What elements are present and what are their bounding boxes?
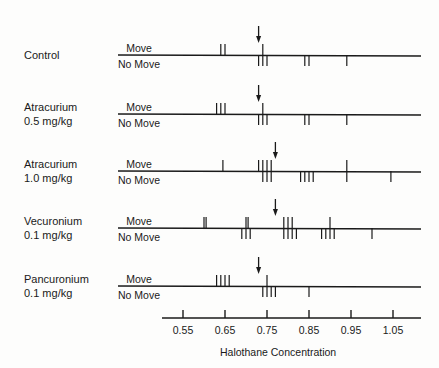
x-axis-tick-label: 1.05 — [379, 324, 407, 336]
series-baseline — [118, 286, 421, 287]
series-baseline — [118, 55, 421, 56]
mac-arrow-icon — [256, 267, 261, 274]
x-axis-title: Halothane Concentration — [220, 346, 336, 358]
plot-area — [0, 0, 439, 368]
mac-arrow-icon — [256, 95, 261, 102]
x-axis-tick-label: 0.55 — [169, 324, 197, 336]
mac-arrow-icon — [273, 152, 278, 159]
x-axis-tick-label: 0.95 — [337, 324, 365, 336]
series-baseline — [118, 114, 421, 115]
series-baseline — [118, 228, 421, 229]
x-axis-tick-label: 0.85 — [295, 324, 323, 336]
mac-arrow-icon — [273, 209, 278, 216]
series-baseline — [118, 171, 421, 172]
chart-figure: Control Atracurium 0.5 mg/kg Atracurium … — [0, 0, 439, 368]
x-axis-tick-label: 0.65 — [211, 324, 239, 336]
x-axis-tick-label: 0.75 — [253, 324, 281, 336]
mac-arrow-icon — [256, 36, 261, 43]
